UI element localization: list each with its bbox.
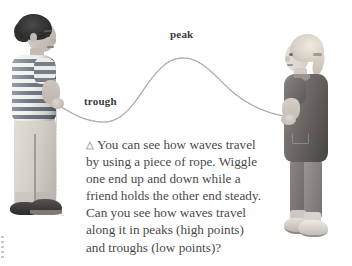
boy-figure bbox=[8, 14, 82, 252]
girl-eye bbox=[289, 53, 293, 56]
scan-edge-artifact bbox=[1, 236, 4, 260]
caption-text: You can see how waves travel by using a … bbox=[86, 137, 261, 255]
girl-hair bbox=[290, 34, 324, 62]
trough-label: trough bbox=[84, 95, 117, 107]
rope-path bbox=[58, 58, 300, 122]
boy-nose bbox=[51, 38, 56, 44]
boy-ear bbox=[30, 33, 37, 42]
boy-shoe-sole bbox=[30, 210, 62, 215]
girl-figure bbox=[280, 34, 346, 252]
boy-eye bbox=[46, 34, 50, 37]
illustration-page: peak trough bbox=[0, 0, 352, 266]
girl-hand bbox=[281, 114, 296, 125]
peak-label: peak bbox=[170, 28, 193, 40]
boy-hand bbox=[51, 98, 64, 109]
girl-mouth bbox=[287, 64, 293, 66]
girl-hair-band bbox=[313, 53, 322, 56]
girl-shoe-front bbox=[298, 220, 328, 237]
caption-block: △You can see how waves travel by using a… bbox=[86, 136, 262, 256]
boy-mouth bbox=[47, 46, 54, 48]
triangle-marker: △ bbox=[86, 139, 94, 150]
rope-path-core bbox=[58, 58, 300, 122]
girl-nose bbox=[285, 56, 290, 62]
